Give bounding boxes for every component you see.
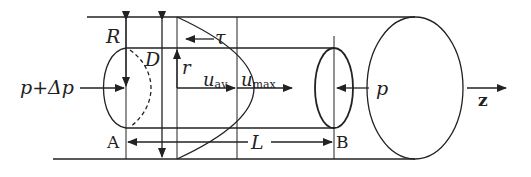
label-z: z	[478, 90, 488, 110]
pipe-flow-diagram: R D r τ uav umax p+Δp p A B L z	[0, 0, 531, 177]
u-max-symbol: u	[241, 69, 253, 90]
label-A: A	[106, 132, 120, 152]
label-tau: τ	[215, 26, 226, 48]
label-L: L	[250, 131, 264, 153]
u-av-subscript: av	[215, 78, 229, 91]
label-u-max: umax	[241, 69, 277, 91]
label-D: D	[144, 48, 160, 70]
label-r: r	[182, 57, 192, 78]
u-max-subscript: max	[253, 78, 277, 91]
label-B: B	[336, 132, 349, 152]
label-inlet-pressure: p+Δp	[20, 76, 74, 98]
u-av-symbol: u	[203, 69, 215, 90]
label-u-av: uav	[203, 69, 228, 91]
label-outlet-pressure: p	[376, 77, 388, 99]
label-R: R	[105, 25, 120, 47]
